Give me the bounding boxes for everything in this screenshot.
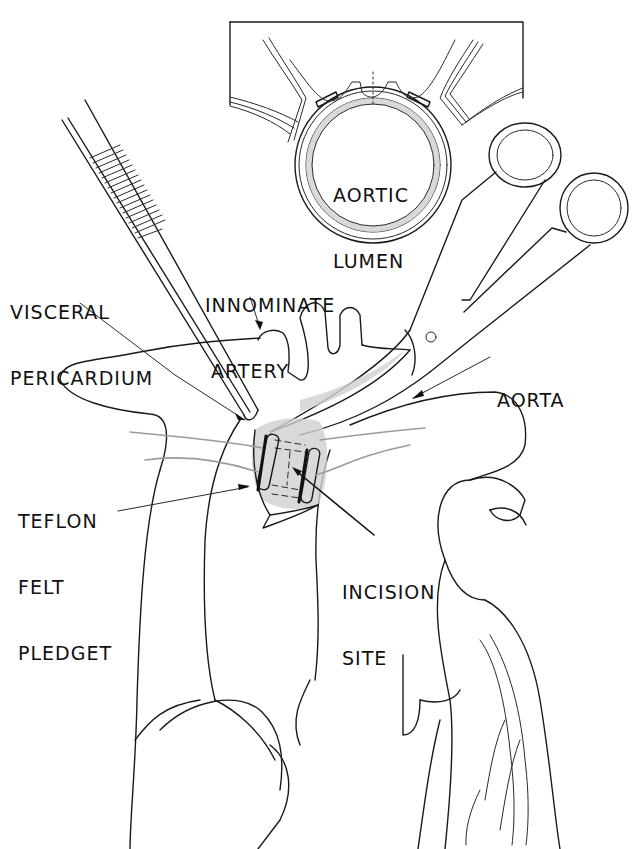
visceral-pericardium-line2: PERICARDIUM <box>10 367 153 389</box>
teflon-felt-pledget-line2: FELT <box>18 576 112 598</box>
innominate-artery-label: INNOMINATE ARTERY <box>205 250 335 426</box>
visceral-pericardium-label: VISCERAL PERICARDIUM <box>10 257 153 433</box>
aortic-lumen-line2: LUMEN <box>333 250 409 272</box>
incision-site-label: INCISION SITE <box>342 537 436 713</box>
innominate-artery-line2: ARTERY <box>205 360 335 382</box>
teflon-felt-pledget-line1: TEFLON <box>18 510 112 532</box>
visceral-pericardium-line1: VISCERAL <box>10 301 153 323</box>
incision-area <box>130 418 425 528</box>
teflon-felt-pledget-line3: PLEDGET <box>18 642 112 664</box>
teflon-felt-pledget-label: TEFLON FELT PLEDGET <box>18 466 112 708</box>
aortic-lumen-label: AORTIC LUMEN <box>333 140 409 316</box>
aorta-line1: AORTA <box>497 389 565 411</box>
aorta-label: AORTA <box>497 345 565 455</box>
aortic-lumen-line1: AORTIC <box>333 184 409 206</box>
surgical-diagram: AORTIC LUMEN VISCERAL PERICARDIUM INNOMI… <box>0 0 643 849</box>
innominate-artery-line1: INNOMINATE <box>205 294 335 316</box>
incision-site-line2: SITE <box>342 647 436 669</box>
incision-site-line1: INCISION <box>342 581 436 603</box>
